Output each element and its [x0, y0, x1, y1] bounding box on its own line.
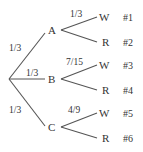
branch-a-r [61, 30, 97, 42]
node-b: B [48, 73, 55, 85]
branch-b-w [61, 65, 97, 79]
outcome-6: #6 [123, 133, 133, 144]
label-a-r: R [102, 36, 110, 48]
label-b-r: R [102, 84, 110, 96]
outcome-5: #5 [123, 108, 133, 119]
outcome-2: #2 [123, 37, 133, 48]
prob-b-w: 7/15 [66, 57, 83, 67]
prob-c-w: 4/9 [68, 105, 80, 115]
prob-a-w: 1/3 [70, 9, 82, 19]
prob-root-c: 1/3 [9, 105, 21, 115]
node-a: A [48, 24, 56, 36]
prob-root-b: 1/3 [26, 68, 38, 78]
branch-b-r [61, 79, 97, 90]
label-b-w: W [99, 59, 110, 71]
outcome-3: #3 [123, 60, 133, 71]
label-c-w: W [99, 107, 110, 119]
branch-c-w [61, 113, 97, 127]
node-c: C [48, 121, 55, 133]
branch-root-c [9, 79, 45, 126]
label-c-r: R [102, 132, 110, 144]
label-a-w: W [99, 11, 110, 23]
outcome-1: #1 [123, 12, 133, 23]
prob-root-a: 1/3 [9, 43, 21, 53]
probability-tree: 1/3 1/3 1/3 A B C 1/3 W R #1 #2 7/15 W R… [0, 0, 143, 152]
outcome-4: #4 [123, 85, 133, 96]
branch-c-r [61, 127, 97, 138]
